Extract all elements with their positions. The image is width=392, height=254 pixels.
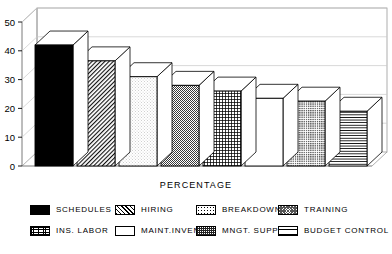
legend-item-hiring[interactable]: HIRING bbox=[115, 202, 195, 218]
legend-label-maint-inventory: MAINT.INVENT bbox=[141, 226, 203, 236]
legend-item-training[interactable]: TRAINING bbox=[278, 202, 388, 218]
bar-side-face bbox=[157, 63, 172, 166]
y-tick-label-20: 20 bbox=[4, 103, 15, 114]
legend-label-ins-labor: INS. LABOR bbox=[56, 226, 108, 236]
legend-swatch-schedules-icon bbox=[30, 205, 50, 215]
legend-swatch-mngt-support-icon bbox=[196, 226, 216, 236]
bar-side-face bbox=[73, 31, 88, 166]
legend-item-mngt-support[interactable]: MNGT. SUPPO bbox=[196, 223, 284, 239]
y-tick-label-50: 50 bbox=[4, 17, 15, 28]
y-tick-label-40: 40 bbox=[4, 45, 15, 56]
legend-label-training: TRAINING bbox=[304, 205, 348, 215]
chart-legend: SCHEDULES HIRING BREAKDOWNS TRAINING INS… bbox=[0, 202, 392, 248]
legend-swatch-breakdowns-icon bbox=[196, 205, 216, 215]
y-tick-label-30: 30 bbox=[4, 74, 15, 85]
legend-item-budget-control[interactable]: BUDGET CONTROL bbox=[278, 223, 392, 239]
legend-swatch-hiring-icon bbox=[115, 205, 135, 215]
legend-item-schedules[interactable]: SCHEDULES bbox=[30, 202, 125, 218]
y-tick-label-0: 0 bbox=[10, 161, 15, 172]
x-axis-title: PERCENTAGE bbox=[0, 180, 392, 190]
legend-item-maint-inventory[interactable]: MAINT.INVENT bbox=[115, 223, 203, 239]
legend-row-1: SCHEDULES HIRING BREAKDOWNS TRAINING bbox=[0, 202, 392, 218]
legend-label-budget-control: BUDGET CONTROL bbox=[304, 226, 389, 236]
legend-swatch-maint-inventory-icon bbox=[115, 226, 135, 236]
chart-svg: 50 40 30 20 10 0 bbox=[0, 0, 392, 196]
y-axis-ticks: 50 40 30 20 10 0 bbox=[4, 17, 22, 172]
legend-item-breakdowns[interactable]: BREAKDOWNS bbox=[196, 202, 288, 218]
chart-page: 50 40 30 20 10 0 PERCENTAGE SCHEDULES HI… bbox=[0, 0, 392, 254]
legend-row-2: INS. LABOR MAINT.INVENT MNGT. SUPPO BUDG… bbox=[0, 223, 392, 239]
legend-swatch-ins-labor-icon bbox=[30, 226, 50, 236]
bar-side-face bbox=[199, 71, 214, 166]
bar-side-face bbox=[241, 77, 256, 166]
bar-chart: 50 40 30 20 10 0 bbox=[0, 0, 392, 196]
legend-label-schedules: SCHEDULES bbox=[56, 205, 112, 215]
bar[interactable] bbox=[35, 31, 88, 166]
legend-swatch-training-icon bbox=[278, 205, 298, 215]
bar-front-face bbox=[35, 45, 73, 166]
legend-label-hiring: HIRING bbox=[141, 205, 174, 215]
legend-item-ins-labor[interactable]: INS. LABOR bbox=[30, 223, 125, 239]
legend-swatch-budget-control-icon bbox=[278, 226, 298, 236]
y-tick-label-10: 10 bbox=[4, 132, 15, 143]
legend-label-mngt-support: MNGT. SUPPO bbox=[222, 226, 284, 236]
bar-side-face bbox=[115, 47, 130, 166]
